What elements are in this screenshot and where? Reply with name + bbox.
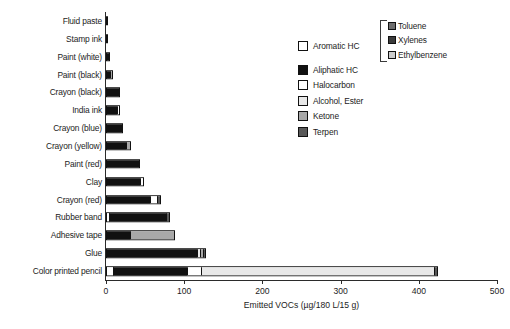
legend-aromatic-subgroup: TolueneXylenesEthylbenzene [388, 19, 498, 62]
category-label: Crayon (black) [50, 87, 102, 97]
stacked-bar [106, 248, 206, 258]
bar-segment-halocarbon [117, 107, 119, 115]
bar-segment-aliphatic-hc [107, 232, 130, 240]
voc-bar-chart: Fluid pasteStamp inkPaint (white)Paint (… [0, 0, 510, 329]
bar-segment-halocarbon [150, 196, 157, 204]
x-axis-tick [341, 280, 342, 284]
chart-row: Paint (red) [106, 155, 497, 173]
category-label: Color printed pencil [33, 266, 102, 276]
x-axis-tick-label: 0 [104, 286, 109, 296]
x-axis-tick-label: 300 [333, 286, 347, 296]
legend-swatch-ethylbenzene [388, 51, 396, 59]
category-label: Rubber band [55, 212, 102, 222]
legend-swatch-halocarbon [298, 80, 308, 90]
legend-item[interactable]: Ketone [298, 109, 418, 124]
bar-segment-aliphatic-hc [107, 53, 109, 61]
stacked-bar [106, 52, 110, 62]
bar-segment-halocarbon [140, 178, 142, 186]
x-axis-tick [497, 280, 498, 284]
x-axis-tick-label: 400 [412, 286, 426, 296]
legend-label: Alcohol, Ester [313, 96, 363, 106]
legend-swatch-ketone [298, 111, 308, 121]
bar-segment-terpen [203, 249, 205, 257]
category-label: Stamp ink [66, 34, 102, 44]
x-axis-tick [262, 280, 263, 284]
legend-swatch-aromatic-hc [298, 41, 308, 51]
category-label: Fluid paste [63, 16, 102, 26]
legend-swatch-aliphatic-hc [298, 65, 308, 75]
legend-item[interactable]: Alcohol, Ester [298, 93, 418, 108]
stacked-bar [106, 141, 131, 151]
bar-segment-alcohol-ester [201, 267, 434, 275]
legend-sub-label: Ethylbenzene [398, 50, 447, 60]
legend-sub-item[interactable]: Toluene [388, 19, 498, 33]
category-label: India ink [72, 105, 102, 115]
bar-segment-ketone [130, 232, 174, 240]
bar-segment-aliphatic-hc [107, 178, 140, 186]
bar-segment-aliphatic-hc [107, 160, 139, 168]
bar-segment-halocarbon [187, 267, 201, 275]
x-axis-tick [184, 280, 185, 284]
bar-segment-aliphatic-hc [107, 249, 197, 257]
bar-segment-aliphatic-hc [109, 214, 167, 222]
category-label: Paint (black) [57, 70, 102, 80]
chart-row: Glue [106, 244, 497, 262]
category-label: Clay [86, 177, 102, 187]
x-axis-tick-label: 200 [255, 286, 269, 296]
category-label: Crayon (yellow) [46, 141, 102, 151]
legend-label: Aromatic HC [313, 41, 359, 51]
stacked-bar [106, 266, 438, 276]
stacked-bar [106, 159, 140, 169]
legend-swatch-terpen [298, 127, 308, 137]
legend-sub-item[interactable]: Xylenes [388, 33, 498, 47]
x-axis-tick-label: 500 [490, 286, 504, 296]
x-axis-tick [419, 280, 420, 284]
stacked-bar [106, 195, 161, 205]
legend-item[interactable]: Halocarbon [298, 78, 418, 93]
legend-sub-label: Toluene [398, 21, 426, 31]
stacked-bar [106, 123, 123, 133]
legend-item[interactable]: Terpen [298, 124, 418, 139]
legend-label: Terpen [313, 127, 338, 137]
category-label: Glue [85, 248, 102, 258]
legend-swatch-toluene [388, 22, 396, 30]
category-label: Paint (white) [57, 52, 102, 62]
bar-segment-terpen [434, 267, 437, 275]
bar-segment-ketone [126, 142, 130, 150]
chart-row: Clay [106, 173, 497, 191]
chart-row: Rubber band [106, 209, 497, 227]
legend-sub-label: Xylenes [398, 35, 427, 45]
bar-segment-aliphatic-hc [113, 267, 187, 275]
stacked-bar [106, 106, 120, 116]
bar-segment-aliphatic-hc [107, 196, 150, 204]
category-label: Adhesive tape [51, 230, 102, 240]
chart-row: Crayon (yellow) [106, 137, 497, 155]
bar-segment-aliphatic-hc [107, 107, 117, 115]
x-axis-tick [106, 280, 107, 284]
stacked-bar [106, 34, 108, 44]
bar-segment-aliphatic-hc [107, 142, 126, 150]
legend-item[interactable]: Aliphatic HC [298, 62, 418, 77]
legend-swatch-alcohol-ester [298, 96, 308, 106]
stacked-bar [106, 177, 144, 187]
legend-label: Ketone [313, 111, 339, 121]
category-label: Paint (red) [65, 159, 102, 169]
x-axis-line [105, 280, 498, 281]
stacked-bar [106, 16, 108, 26]
stacked-bar [106, 70, 113, 80]
bar-segment-terpen [157, 196, 160, 204]
stacked-bar [106, 213, 170, 223]
category-label: Crayon (blue) [53, 123, 102, 133]
stacked-bar [106, 88, 120, 98]
chart-row: Crayon (red) [106, 191, 497, 209]
chart-row: Color printed pencil [106, 262, 497, 280]
bar-segment-ketone [110, 71, 112, 79]
stacked-bar [106, 231, 175, 241]
legend-sub-item[interactable]: Ethylbenzene [388, 48, 498, 62]
bar-segment-aliphatic-hc [107, 124, 122, 132]
legend-label: Halocarbon [313, 80, 355, 90]
x-axis-title: Emitted VOCs (µg/180 L/15 g) [106, 300, 497, 310]
category-label: Crayon (red) [57, 195, 102, 205]
x-axis-tick-label: 100 [177, 286, 191, 296]
bar-segment-aliphatic-hc [107, 89, 119, 97]
